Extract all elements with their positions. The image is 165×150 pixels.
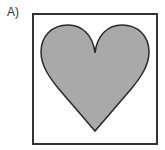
heart-figure	[0, 0, 165, 150]
